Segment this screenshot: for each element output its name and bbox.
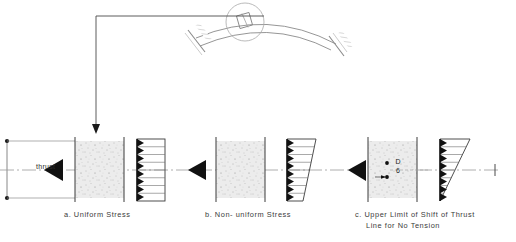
panel-a-caption: a. Uniform Stress <box>64 210 130 219</box>
figure-canvas: thrust D 6 a. Uniform Stress b. Non- uni… <box>0 0 516 242</box>
panel-b-section <box>216 141 265 198</box>
detail-leader-line <box>92 16 264 134</box>
panel-c-caption-line2: Line for No Tension <box>366 220 440 231</box>
arch-assembly <box>185 3 353 56</box>
panel-b-caption: b. Non- uniform Stress <box>205 210 291 219</box>
right-abutment <box>329 30 353 56</box>
panel-a-stress-diagram <box>137 139 165 201</box>
eccentricity-dot-top <box>385 161 389 165</box>
panel-b-thrust-arrow <box>188 160 206 180</box>
eccentricity-numerator: D <box>392 158 404 166</box>
panel-c <box>348 137 470 202</box>
panel-a <box>44 137 165 202</box>
panel-c-caption-line1: c. Upper Limit of Shift of Thrust <box>355 209 475 220</box>
arch-intrados <box>200 32 331 50</box>
panel-a-section <box>75 141 124 198</box>
eccentricity-denominator: 6 <box>392 167 404 175</box>
figure-svg <box>0 0 516 242</box>
panel-b <box>188 137 316 202</box>
panel-c-thrust-arrow <box>348 160 366 181</box>
arch-extrados <box>196 24 336 44</box>
panel-a-thrust-label: thrust <box>36 163 55 170</box>
detail-circle <box>226 3 264 41</box>
left-abutment <box>185 23 212 55</box>
leader-arrowhead <box>92 124 100 134</box>
